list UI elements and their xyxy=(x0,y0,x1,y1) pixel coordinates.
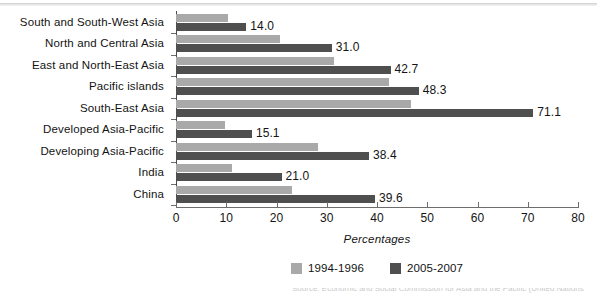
bar-value-label: 14.0 xyxy=(250,19,274,33)
category-label: China xyxy=(133,188,164,200)
x-axis-tick-label: 20 xyxy=(257,211,297,225)
bar-1994-1996 xyxy=(176,186,292,194)
bar-1994-1996 xyxy=(176,14,228,22)
x-axis-tick-label: 40 xyxy=(357,211,397,225)
bar-1994-1996 xyxy=(176,121,225,129)
bar-2005-2007 xyxy=(176,87,419,95)
y-axis-tick xyxy=(171,162,176,163)
bar-2005-2007 xyxy=(176,130,252,138)
category-label: Developed Asia-Pacific xyxy=(43,123,164,135)
category-axis-labels: South and South-West AsiaNorth and Centr… xyxy=(4,12,170,205)
x-axis-tick-label: 70 xyxy=(508,211,548,225)
x-axis-tick xyxy=(226,202,227,207)
x-axis-tick-label: 10 xyxy=(206,211,246,225)
bar-2005-2007 xyxy=(176,66,391,74)
legend-item-2005-2007: 2005-2007 xyxy=(390,262,463,274)
bar-2005-2007 xyxy=(176,173,282,181)
x-axis-tick xyxy=(176,202,177,207)
y-axis-tick xyxy=(171,119,176,120)
x-axis-tick-label: 80 xyxy=(558,211,597,225)
bar-1994-1996 xyxy=(176,100,411,108)
y-axis-tick xyxy=(171,33,176,34)
bar-value-label: 38.4 xyxy=(373,148,397,162)
bar-value-label: 42.7 xyxy=(395,62,419,76)
bar-value-label: 71.1 xyxy=(537,105,561,119)
x-axis-tick xyxy=(478,202,479,207)
x-axis-line xyxy=(176,207,579,208)
x-axis-tick xyxy=(578,202,579,207)
source-note-text: Source: Economic and Social Commission f… xyxy=(292,288,584,293)
bar-chart-figure: South and South-West AsiaNorth and Centr… xyxy=(0,0,597,298)
y-axis-tick xyxy=(171,55,176,56)
chart-legend: 1994-1996 2005-2007 xyxy=(176,262,578,274)
x-axis-tick-label: 30 xyxy=(307,211,347,225)
chart-row: 38.4 xyxy=(176,141,578,162)
chart-row: 14.0 xyxy=(176,12,578,33)
legend-label-prev: 1994-1996 xyxy=(308,262,364,274)
x-axis-tick xyxy=(427,202,428,207)
bar-value-label: 31.0 xyxy=(336,40,360,54)
bar-2005-2007 xyxy=(176,23,246,31)
bar-1994-1996 xyxy=(176,143,318,151)
source-note-strip: Source: Economic and Social Commission f… xyxy=(292,288,597,298)
bar-value-label: 39.6 xyxy=(379,191,403,205)
y-axis-tick xyxy=(171,184,176,185)
plot-area: 14.031.042.748.371.115.138.421.039.6 xyxy=(176,12,578,205)
x-axis-tick-label: 0 xyxy=(156,211,196,225)
chart-row: 15.1 xyxy=(176,119,578,140)
x-axis-tick-label: 60 xyxy=(458,211,498,225)
x-axis-tick xyxy=(277,202,278,207)
chart-row: 71.1 xyxy=(176,98,578,119)
chart-row: 42.7 xyxy=(176,55,578,76)
bar-1994-1996 xyxy=(176,78,389,86)
category-label: East and North-East Asia xyxy=(32,59,164,71)
bar-2005-2007 xyxy=(176,195,375,203)
category-label: India xyxy=(138,166,164,178)
bar-value-label: 21.0 xyxy=(286,169,310,183)
legend-swatch-icon-prev xyxy=(291,263,302,274)
category-label: South-East Asia xyxy=(80,102,164,114)
bar-2005-2007 xyxy=(176,152,369,160)
bar-value-label: 15.1 xyxy=(256,126,280,140)
chart-row: 21.0 xyxy=(176,162,578,183)
chart-row: 31.0 xyxy=(176,33,578,54)
bar-1994-1996 xyxy=(176,35,280,43)
y-axis-tick xyxy=(171,98,176,99)
x-axis-tick-label: 50 xyxy=(407,211,447,225)
legend-swatch-icon-curr xyxy=(390,263,401,274)
chart-row: 48.3 xyxy=(176,76,578,97)
bar-value-label: 48.3 xyxy=(423,83,447,97)
x-axis-tick xyxy=(327,202,328,207)
y-axis-tick xyxy=(171,76,176,77)
bar-1994-1996 xyxy=(176,57,334,65)
bar-2005-2007 xyxy=(176,109,533,117)
bar-1994-1996 xyxy=(176,164,232,172)
legend-label-curr: 2005-2007 xyxy=(407,262,463,274)
bar-2005-2007 xyxy=(176,44,332,52)
y-axis-tick xyxy=(171,141,176,142)
category-label: North and Central Asia xyxy=(45,37,164,49)
x-axis-tick xyxy=(528,202,529,207)
category-label: South and South-West Asia xyxy=(20,16,164,28)
legend-item-1994-1996: 1994-1996 xyxy=(291,262,364,274)
x-axis-tick xyxy=(377,202,378,207)
x-axis-title: Percentages xyxy=(176,233,578,245)
category-label: Developing Asia-Pacific xyxy=(40,145,164,157)
category-label: Pacific islands xyxy=(89,80,164,92)
